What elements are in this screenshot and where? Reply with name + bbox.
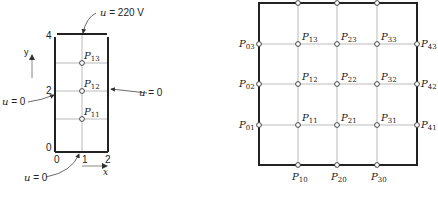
node-p11	[296, 123, 301, 128]
bottom-callout-arrow-icon	[46, 154, 79, 177]
node-p20	[335, 163, 340, 168]
right-grid	[257, 1, 420, 168]
node-p12	[296, 82, 301, 87]
boundary-top-label: u = 220 V	[100, 8, 144, 18]
label-p21: P21	[341, 113, 357, 125]
node-p03	[257, 42, 262, 47]
label-p13-grid: P13	[302, 32, 318, 44]
y-axis-label: y	[24, 48, 29, 57]
node-p31	[375, 123, 380, 128]
label-p32: P32	[381, 72, 397, 84]
label-p30: P30	[371, 172, 387, 184]
node	[335, 1, 340, 6]
node-p41	[415, 123, 420, 128]
left-callout-arrow-icon	[28, 95, 54, 102]
x-tick-2: 2	[105, 155, 111, 165]
node	[296, 1, 301, 6]
label-p10: P10	[292, 172, 308, 184]
label-p01: P01	[239, 120, 255, 132]
node-p23	[335, 42, 340, 47]
node-p32	[375, 82, 380, 87]
boundary-right-label: u = 0	[139, 88, 162, 98]
diagram-canvas	[0, 0, 438, 197]
x-axis-label: x	[103, 168, 108, 177]
y-tick-2: 2	[46, 86, 52, 96]
label-p03: P03	[239, 39, 255, 51]
label-p12-grid: P12	[302, 72, 318, 84]
label-p41: P41	[421, 120, 437, 132]
node-p02	[257, 82, 262, 87]
label-p23: P23	[341, 32, 357, 44]
node-p21	[335, 123, 340, 128]
boundary-bottom-label: u = 0	[24, 173, 47, 183]
label-p31: P31	[381, 113, 397, 125]
label-p12: P12	[84, 79, 100, 91]
y-tick-0: 0	[46, 143, 52, 153]
node-p13	[296, 42, 301, 47]
node-p01	[257, 123, 262, 128]
label-p33: P33	[381, 32, 397, 44]
node-p30	[375, 163, 380, 168]
x-tick-1: 1	[82, 155, 88, 165]
node-p43	[415, 42, 420, 47]
label-p13: P13	[84, 51, 100, 63]
label-p42: P42	[421, 79, 437, 91]
node-p33	[375, 42, 380, 47]
label-p22: P22	[341, 72, 357, 84]
label-p11: P11	[84, 107, 100, 119]
node	[375, 1, 380, 6]
label-p11-grid: P11	[302, 113, 318, 125]
node-p22	[335, 82, 340, 87]
node-p42	[415, 82, 420, 87]
label-p20: P20	[331, 172, 347, 184]
y-tick-4: 4	[46, 31, 52, 41]
boundary-left-label: u = 0	[2, 97, 25, 107]
label-p02: P02	[239, 79, 255, 91]
node-p10	[296, 163, 301, 168]
x-tick-0: 0	[54, 155, 60, 165]
label-p43: P43	[421, 39, 437, 51]
top-callout-arrow-icon	[83, 13, 96, 33]
